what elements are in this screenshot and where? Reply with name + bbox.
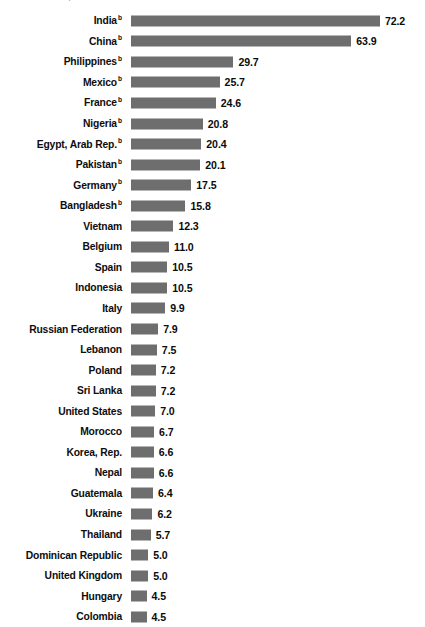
bar-track — [131, 56, 233, 67]
bar-value-label: 5.0 — [153, 570, 167, 581]
bar — [131, 426, 154, 437]
bar — [131, 550, 148, 561]
bar-row: Russian Federation7.9 — [0, 319, 425, 340]
footnote-marker: b — [118, 199, 122, 206]
bar-track — [131, 139, 201, 150]
category-label: Korea, Rep. — [0, 447, 122, 458]
bar-track — [131, 508, 152, 519]
category-label: Sri Lanka — [0, 385, 122, 396]
bar-value-label: 4.5 — [152, 591, 166, 602]
category-label: Nigeriab — [0, 118, 122, 129]
bar — [131, 447, 154, 458]
category-label: Morocco — [0, 426, 122, 437]
category-label: Egypt, Arab Rep.b — [0, 139, 122, 150]
footnote-marker: b — [118, 14, 122, 21]
bar-track — [131, 385, 156, 396]
bar-row: Philippinesb29.7 — [0, 52, 425, 73]
bar-row: Nigeriab20.8 — [0, 113, 425, 134]
footnote-marker: b — [118, 34, 122, 41]
bar-value-label: 25.7 — [225, 77, 245, 88]
bar-row: Nepal6.6 — [0, 463, 425, 484]
bar-track — [131, 77, 220, 88]
bar — [131, 488, 153, 499]
bar-row: Poland7.2 — [0, 360, 425, 381]
category-label: Ukraine — [0, 508, 122, 519]
bar-track — [131, 221, 173, 232]
bar-value-label: 20.8 — [208, 118, 228, 129]
bar-track — [131, 406, 155, 417]
bar — [131, 221, 173, 232]
bar-track — [131, 15, 380, 26]
bar-row: Spain10.5 — [0, 257, 425, 278]
bar-track — [131, 97, 216, 108]
bar-row: Korea, Rep.6.6 — [0, 442, 425, 463]
category-label: Dominican Republic — [0, 550, 122, 561]
bar-track — [131, 303, 165, 314]
bar-value-label: 20.4 — [206, 139, 226, 150]
category-label: Russian Federation — [0, 324, 122, 335]
category-label: United States — [0, 406, 122, 417]
bar — [131, 262, 167, 273]
category-label: Thailand — [0, 529, 122, 540]
bar-value-label: 15.8 — [190, 200, 210, 211]
bar-row: Mexicob25.7 — [0, 72, 425, 93]
bar — [131, 56, 233, 67]
category-label: Hungary — [0, 591, 122, 602]
bar-row: Chinab63.9 — [0, 31, 425, 52]
bar — [131, 365, 156, 376]
footnote-marker: b — [118, 178, 122, 185]
bar-track — [131, 550, 148, 561]
category-label: Philippinesb — [0, 56, 122, 67]
bar-value-label: 7.2 — [161, 385, 175, 396]
bar-value-label: 20.1 — [205, 159, 225, 170]
bar-value-label: 7.2 — [161, 365, 175, 376]
bar-value-label: 12.3 — [178, 221, 198, 232]
bar-value-label: 6.6 — [159, 447, 173, 458]
bar-row: Franceb24.6 — [0, 93, 425, 114]
bar-track — [131, 570, 148, 581]
bar-value-label: 6.2 — [157, 508, 171, 519]
category-label: Nepal — [0, 467, 122, 478]
category-label: Germanyb — [0, 180, 122, 191]
bar-value-label: 17.5 — [196, 180, 216, 191]
bar — [131, 467, 154, 478]
bar-value-label: 29.7 — [238, 56, 258, 67]
bar-track — [131, 118, 203, 129]
category-label: Colombia — [0, 611, 122, 622]
bar-track — [131, 36, 351, 47]
category-label: Pakistanb — [0, 159, 122, 170]
category-label: United Kingdom — [0, 570, 122, 581]
bar-track — [131, 426, 154, 437]
bar-value-label: 9.9 — [170, 303, 184, 314]
bar-track — [131, 282, 167, 293]
category-label: Indonesia — [0, 282, 122, 293]
bar-value-label: 7.9 — [163, 324, 177, 335]
bar — [131, 508, 152, 519]
bar-value-label: 6.7 — [159, 426, 173, 437]
bar-row: Hungary4.5 — [0, 586, 425, 607]
bar — [131, 159, 200, 170]
bar-row: Germanyb17.5 — [0, 175, 425, 196]
bar-value-label: 6.4 — [158, 488, 172, 499]
footnote-marker: b — [118, 137, 122, 144]
bar-row: Vietnam12.3 — [0, 216, 425, 237]
bar-value-label: 5.7 — [156, 529, 170, 540]
bar-track — [131, 467, 154, 478]
bar-row: Indonesia10.5 — [0, 278, 425, 299]
bar-track — [131, 488, 153, 499]
bar-row: Belgium11.0 — [0, 237, 425, 258]
category-label: Chinab — [0, 36, 122, 47]
bar — [131, 344, 157, 355]
bar-row: Dominican Republic5.0 — [0, 545, 425, 566]
bar-value-label: 11.0 — [174, 241, 194, 252]
bar-value-label: 24.6 — [221, 97, 241, 108]
footnote-marker: b — [118, 117, 122, 124]
bar-track — [131, 365, 156, 376]
category-label: Belgium — [0, 241, 122, 252]
category-label: Poland — [0, 365, 122, 376]
category-label: Spain — [0, 262, 122, 273]
category-label: Mexicob — [0, 77, 122, 88]
bar-track — [131, 159, 200, 170]
bar-row: Colombia4.5 — [0, 606, 425, 627]
